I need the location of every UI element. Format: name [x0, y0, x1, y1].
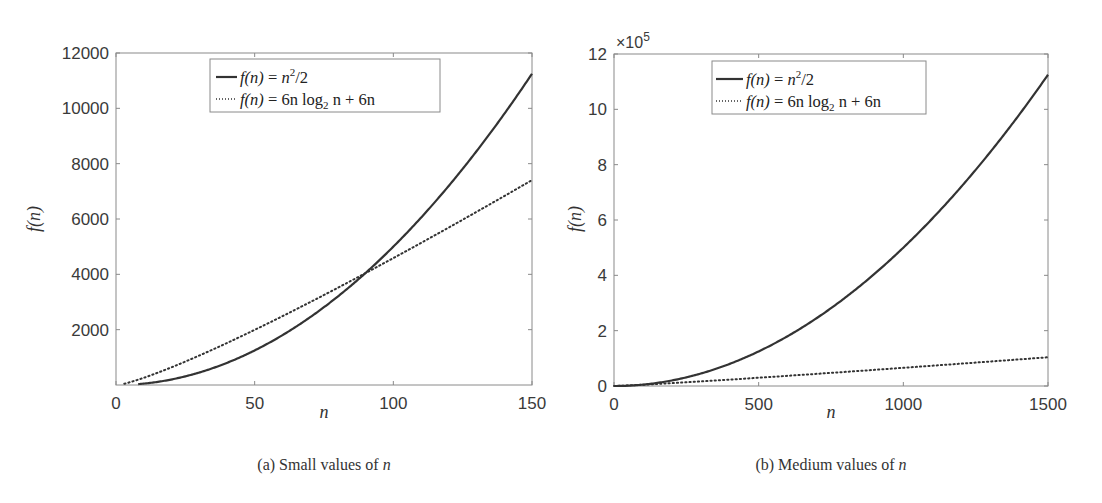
x-tick-label: 0: [609, 395, 618, 414]
y-tick-label: 4000: [71, 265, 109, 284]
y-tick-label: 12: [588, 45, 607, 64]
legend-entry-n2-b: f(n) = n2/2: [746, 68, 814, 89]
y-exponent-label-b: ×105: [616, 30, 650, 51]
legend-entry-n2-a: f(n) = n2/2: [240, 66, 308, 87]
legend-b: f(n) = n2/2 f(n) = 6n log2 n + 6n: [712, 61, 926, 114]
y-tick-labels-b: 024681012: [588, 45, 607, 396]
x-axis-label-a: n: [320, 402, 329, 422]
x-tick-label: 1500: [1029, 395, 1067, 414]
x-tick-labels-a: 050100150: [111, 394, 546, 413]
legend-entry-nlogn-b: f(n) = 6n log2 n + 6n: [746, 92, 881, 113]
y-tick-label: 2000: [71, 321, 109, 340]
x-tick-label: 500: [744, 395, 772, 414]
legend-a: f(n) = n2/2 f(n) = 6n log2 n + 6n: [210, 59, 440, 112]
y-tick-label: 8000: [71, 155, 109, 174]
panel-b: 024681012 050010001500 ×105 n f(n) f(n) …: [565, 30, 1067, 474]
y-tick-label: 6000: [71, 210, 109, 229]
panel-a: 20004000600080001000012000 050100150 n f…: [24, 44, 546, 474]
caption-b: (b) Medium values of n: [755, 456, 906, 474]
y-tick-label: 2: [598, 322, 607, 341]
x-tick-labels-b: 050010001500: [609, 395, 1067, 414]
x-tick-label: 50: [245, 394, 264, 413]
y-axis-label-a: f(n): [24, 206, 45, 232]
legend-entry-nlogn-a: f(n) = 6n log2 n + 6n: [240, 90, 375, 111]
y-tick-label: 12000: [62, 44, 109, 63]
y-tick-label: 6: [598, 211, 607, 230]
y-tick-labels-a: 20004000600080001000012000: [62, 44, 109, 340]
y-tick-label: 4: [598, 266, 607, 285]
caption-a: (a) Small values of n: [257, 456, 390, 474]
x-tick-label: 0: [111, 394, 120, 413]
y-tick-label: 10: [588, 100, 607, 119]
y-axis-label-b: f(n): [565, 206, 586, 232]
y-tick-label: 8: [598, 156, 607, 175]
y-tick-label: 0: [598, 377, 607, 396]
x-tick-label: 1000: [884, 395, 922, 414]
y-tick-label: 10000: [62, 99, 109, 118]
x-tick-label: 100: [379, 394, 407, 413]
figure: 20004000600080001000012000 050100150 n f…: [0, 0, 1102, 503]
x-tick-label: 150: [518, 394, 546, 413]
x-axis-label-b: n: [827, 402, 836, 422]
